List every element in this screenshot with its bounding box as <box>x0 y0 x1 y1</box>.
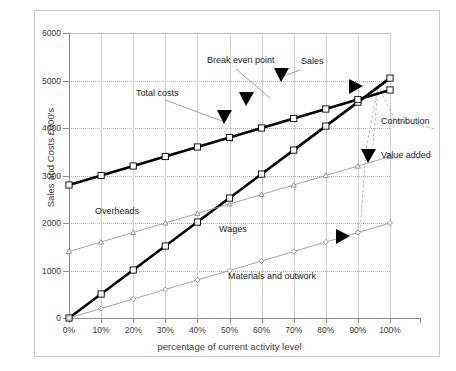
annotation-contribution: Contribution <box>381 116 430 126</box>
data-point <box>387 220 392 225</box>
data-point <box>291 249 296 254</box>
data-point <box>323 123 329 129</box>
data-point <box>130 163 136 169</box>
data-point <box>259 171 265 177</box>
annotation-value-added: Value added <box>381 150 431 160</box>
data-point <box>162 153 168 159</box>
data-point <box>387 75 393 81</box>
data-point <box>259 258 264 263</box>
annotation-break-even-point: Break even point <box>207 55 275 65</box>
annotation-materials: Materials and outwork <box>228 271 316 281</box>
data-point <box>259 125 265 131</box>
data-point <box>98 172 104 178</box>
chart-page: Illustration 3 Break even chart 6000 500… <box>0 0 456 371</box>
annotation-wages: Wages <box>219 224 247 234</box>
annotation-sales: Sales <box>301 56 324 66</box>
data-point <box>226 195 232 201</box>
data-point <box>323 106 329 112</box>
data-point <box>194 219 200 225</box>
data-point <box>355 96 361 102</box>
data-point <box>291 115 297 121</box>
data-point <box>98 291 104 297</box>
data-point <box>387 87 393 93</box>
data-point <box>162 243 168 249</box>
data-point <box>323 239 328 244</box>
data-point <box>99 306 104 311</box>
data-point <box>226 134 232 140</box>
data-point <box>131 296 136 301</box>
data-point <box>163 287 168 292</box>
data-point <box>291 147 297 153</box>
data-point <box>195 277 200 282</box>
data-point <box>130 267 136 273</box>
annotation-overheads: Overheads <box>95 206 139 216</box>
data-point <box>194 144 200 150</box>
annotation-pointer-triangles <box>217 68 376 244</box>
data-point <box>66 182 72 188</box>
annotation-total-costs: Total costs <box>136 88 179 98</box>
